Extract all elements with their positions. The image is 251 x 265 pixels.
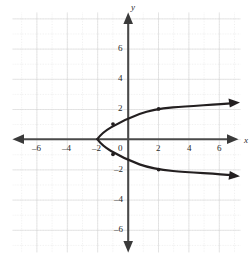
y-tick-label--2: –2	[114, 165, 123, 174]
y-axis-label: y	[131, 3, 135, 12]
point-marker	[157, 168, 161, 172]
point-marker	[157, 107, 161, 111]
point-marker	[111, 152, 115, 156]
grid-lines	[13, 13, 241, 253]
x-tick-label--2: –2	[92, 144, 101, 153]
y-tick-label--6: –6	[114, 225, 123, 234]
graph-canvas	[0, 0, 251, 265]
y-tick-label-4: 4	[118, 74, 123, 83]
x-tick-label--6: –6	[32, 144, 41, 153]
y-tick-label--4: –4	[114, 195, 123, 204]
x-tick-label-4: 4	[187, 144, 192, 153]
x-tick-label-0: 0	[118, 144, 123, 153]
x-tick-label-2: 2	[156, 144, 161, 153]
y-tick-label-6: 6	[118, 44, 123, 53]
y-tick-label-2: 2	[118, 104, 123, 113]
coordinate-plane-graph: –6 –4 –2 0 2 4 6 6 4 2 –2 –4 –6 y x	[0, 0, 251, 265]
x-axis-label: x	[244, 136, 248, 145]
x-tick-label-6: 6	[217, 144, 222, 153]
point-marker	[111, 122, 115, 126]
x-tick-label--4: –4	[62, 144, 71, 153]
